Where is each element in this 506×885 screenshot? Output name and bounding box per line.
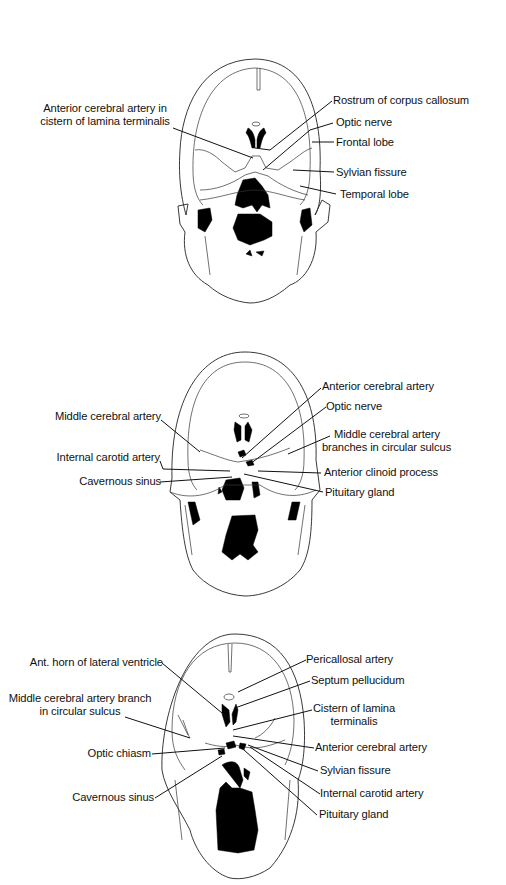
label-optic-chiasm: Optic chiasm [30,747,151,760]
label-mca-branch-circular-sulcus: Middle cerebral artery branch in circula… [2,692,158,718]
label-mca-branches-circular-sulcus: Middle cerebral artery branches in circu… [322,428,451,454]
label-septum-pellucidum: Septum pellucidum [311,674,404,687]
label-internal-carotid-artery: Internal carotid artery [320,787,423,800]
label-rostrum-corpus-callosum: Rostrum of corpus callosum [333,94,469,107]
label-cavernous-sinus: Cavernous sinus [30,475,161,488]
label-anterior-cerebral-artery-lamina: Anterior cerebral artery in cistern of l… [30,102,180,128]
label-ant-horn-lateral-ventricle: Ant. horn of lateral ventricle [5,656,163,669]
label-pericallosal-artery: Pericallosal artery [306,653,393,666]
panel-2-skull-section: Anterior cerebral artery Optic nerve Mid… [0,330,506,610]
label-frontal-lobe: Frontal lobe [336,136,394,149]
label-anterior-cerebral-artery: Anterior cerebral artery [322,380,434,393]
label-temporal-lobe: Temporal lobe [340,188,409,201]
panel-1-skull-section: Anterior cerebral artery in cistern of l… [0,0,506,310]
label-cavernous-sinus: Cavernous sinus [30,791,154,804]
anatomical-figure: Anterior cerebral artery in cistern of l… [0,0,506,885]
panel-1-drawing [0,0,506,310]
panel-3-skull-section: Pericallosal artery Septum pellucidum Ci… [0,610,506,885]
label-pituitary-gland: Pituitary gland [325,486,394,499]
label-anterior-clinoid-process: Anterior clinoid process [324,466,438,479]
label-sylvian-fissure: Sylvian fissure [336,166,407,179]
label-anterior-cerebral-artery: Anterior cerebral artery [315,741,427,754]
label-sylvian-fissure: Sylvian fissure [320,764,391,777]
label-optic-nerve: Optic nerve [336,116,392,129]
label-optic-nerve: Optic nerve [326,400,382,413]
label-pituitary-gland: Pituitary gland [319,808,388,821]
label-middle-cerebral-artery: Middle cerebral artery [30,410,161,423]
label-internal-carotid-artery: Internal carotid artery [30,451,160,464]
label-cistern-lamina-terminalis: Cistern of lamina terminalis [308,702,400,728]
